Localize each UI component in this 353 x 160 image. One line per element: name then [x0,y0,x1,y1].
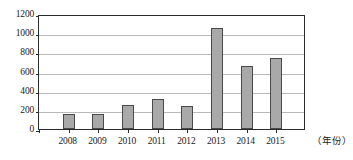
y-tick-label: 0 [2,125,34,135]
bars-group [39,16,304,129]
y-tick-label: 400 [2,87,34,97]
bar [152,99,164,129]
x-tick-label: 2015 [266,136,284,146]
bar [181,106,193,129]
x-tick-label: 2011 [148,136,166,146]
x-tick-mark [247,129,248,133]
x-tick-mark [158,129,159,133]
bar [241,66,253,129]
x-tick-label: 2010 [118,136,136,146]
y-tick-label: 600 [2,68,34,78]
bar [122,105,134,129]
x-tick-mark [217,129,218,133]
x-tick-label: 2012 [177,136,195,146]
y-axis-tick-labels: 020040060080010001200 [2,0,34,160]
x-tick-label: 2009 [88,136,106,146]
x-tick-label: 2008 [59,136,77,146]
x-tick-label: 2013 [207,136,225,146]
bar-chart: 020040060080010001200 200820092010201120… [0,0,353,160]
y-tick-label: 1000 [2,29,34,39]
x-tick-mark [276,129,277,133]
x-tick-mark [187,129,188,133]
x-tick-label: 2014 [237,136,255,146]
bar [63,114,75,129]
x-tick-mark [39,129,40,133]
x-tick-mark [98,129,99,133]
y-tick-label: 800 [2,49,34,59]
y-tick-label: 200 [2,106,34,116]
bar [270,58,282,129]
x-tick-mark [128,129,129,133]
y-tick-label: 1200 [2,10,34,20]
bar [92,114,104,129]
x-axis-title: （年份） [312,136,352,146]
bar [211,28,223,129]
x-tick-mark [69,129,70,133]
plot-area [38,15,305,130]
